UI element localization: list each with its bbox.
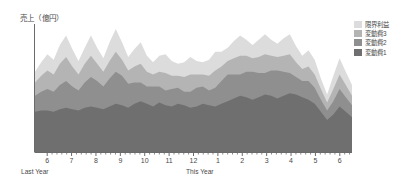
legend-swatch	[354, 49, 362, 56]
x-tick-label: 6	[338, 157, 342, 164]
x-tick-label: 4	[289, 157, 293, 164]
area-series-group	[35, 29, 352, 152]
legend-swatch	[354, 39, 362, 46]
x-tick-label: 9	[118, 157, 122, 164]
plot-area	[0, 0, 409, 195]
stacked-area-chart: 売上（億円） 6789101112123456 Last Year This Y…	[0, 0, 409, 195]
x-tick-label: 2	[240, 157, 244, 164]
legend-item[interactable]: 限界利益	[354, 21, 389, 28]
legend-item[interactable]: 変動費3	[354, 30, 389, 37]
chart-legend: 限界利益変動費3変動費2変動費1	[354, 21, 389, 56]
legend-label: 変動費2	[365, 39, 387, 46]
x-tick-label: 8	[94, 157, 98, 164]
x-tick-label: 6	[45, 157, 49, 164]
legend-item[interactable]: 変動費2	[354, 39, 389, 46]
x-tick-label: 11	[165, 157, 172, 164]
x-tick-label: 7	[70, 157, 74, 164]
x-tick-label: 5	[313, 157, 317, 164]
x-tick-label: 10	[141, 157, 149, 164]
legend-swatch	[354, 30, 362, 37]
legend-swatch	[354, 21, 362, 28]
period-label-last-year: Last Year	[21, 168, 49, 175]
period-label-this-year: This Year	[186, 168, 214, 175]
x-tick-label: 1	[216, 157, 220, 164]
legend-item[interactable]: 変動費1	[354, 49, 389, 56]
legend-label: 変動費3	[365, 30, 387, 37]
x-tick-label: 12	[190, 157, 198, 164]
legend-label: 限界利益	[365, 21, 389, 28]
x-tick-label: 3	[265, 157, 269, 164]
legend-label: 変動費1	[365, 49, 387, 56]
